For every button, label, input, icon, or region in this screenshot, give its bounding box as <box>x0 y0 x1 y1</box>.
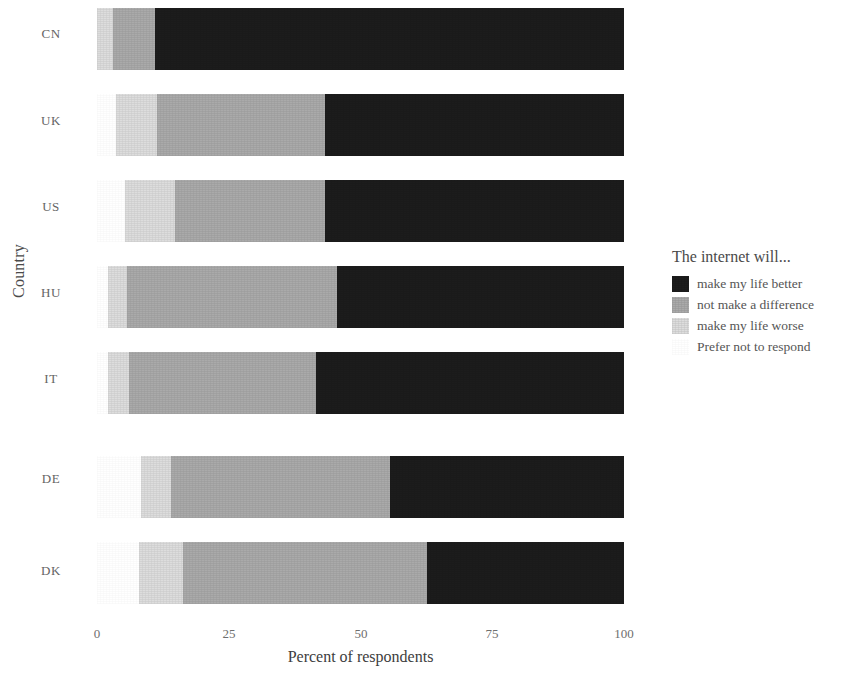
bar-segment-de-worse <box>141 456 171 518</box>
bar-segment-cn-nodiff <box>113 8 155 70</box>
legend-swatch-nodiff-icon <box>672 297 689 313</box>
y-tick-label-hu: HU <box>16 285 86 301</box>
y-tick-label-us: US <box>16 199 86 215</box>
y-tick-label-de: DE <box>16 471 86 487</box>
bar-segment-us-better <box>325 180 624 242</box>
legend-item-make-my-life-worse: make my life worse <box>672 315 848 336</box>
bar-segment-hu-nodiff <box>127 266 338 328</box>
bar-segment-hu-better <box>337 266 624 328</box>
legend: The internet will... make my life better… <box>672 248 848 357</box>
bar-segment-hu-worse <box>108 266 127 328</box>
bar-segment-cn-better <box>155 8 624 70</box>
legend-item-make-my-life-better: make my life better <box>672 273 848 294</box>
x-tick-label-50: 50 <box>331 626 391 642</box>
bar-segment-us-nodiff <box>175 180 325 242</box>
y-tick-label-it: IT <box>16 371 86 387</box>
bar-segment-dk-norespond <box>97 542 139 604</box>
bar-row-it <box>97 352 624 414</box>
bar-segment-it-nodiff <box>129 352 316 414</box>
legend-label-nodiff: not make a difference <box>697 297 814 313</box>
x-tick-label-0: 0 <box>67 626 127 642</box>
bar-segment-dk-nodiff <box>183 542 427 604</box>
y-tick-label-uk: UK <box>16 113 86 129</box>
bar-segment-de-norespond <box>97 456 141 518</box>
legend-swatch-worse-icon <box>672 318 689 334</box>
x-tick-label-75: 75 <box>462 626 522 642</box>
bar-segment-uk-better <box>325 94 624 156</box>
bar-row-dk <box>97 542 624 604</box>
bar-row-cn <box>97 8 624 70</box>
bar-row-uk <box>97 94 624 156</box>
bar-row-de <box>97 456 624 518</box>
bar-segment-us-norespond <box>97 180 125 242</box>
y-tick-label-cn: CN <box>16 26 86 42</box>
bar-segment-cn-worse <box>97 8 113 70</box>
bar-segment-dk-worse <box>139 542 183 604</box>
bar-segment-de-better <box>390 456 624 518</box>
plot-area <box>97 4 624 614</box>
bar-segment-uk-norespond <box>97 94 116 156</box>
bar-segment-it-norespond <box>97 352 108 414</box>
bar-row-hu <box>97 266 624 328</box>
x-axis-title: Percent of respondents <box>97 648 624 666</box>
y-tick-label-dk: DK <box>16 563 86 579</box>
x-tick-label-100: 100 <box>594 626 654 642</box>
bar-row-us <box>97 180 624 242</box>
y-axis-title: Country <box>10 206 28 336</box>
legend-label-worse: make my life worse <box>697 318 804 334</box>
x-tick-label-25: 25 <box>199 626 259 642</box>
bar-segment-it-worse <box>108 352 129 414</box>
legend-swatch-norespond-icon <box>672 339 689 355</box>
legend-title: The internet will... <box>672 248 848 266</box>
bar-segment-uk-nodiff <box>157 94 326 156</box>
bar-segment-hu-norespond <box>97 266 108 328</box>
bar-segment-de-nodiff <box>171 456 390 518</box>
legend-label-better: make my life better <box>697 276 802 292</box>
bar-segment-us-worse <box>125 180 175 242</box>
legend-swatch-better-icon <box>672 276 689 292</box>
legend-item-prefer-not-to-respond: Prefer not to respond <box>672 336 848 357</box>
legend-label-norespond: Prefer not to respond <box>697 339 811 355</box>
bar-segment-dk-better <box>427 542 624 604</box>
bar-segment-uk-worse <box>116 94 156 156</box>
legend-item-not-make-a-difference: not make a difference <box>672 294 848 315</box>
bar-segment-it-better <box>316 352 624 414</box>
stacked-bar-chart: Country CN UK US HU IT DE DK 0 25 50 75 … <box>0 0 848 677</box>
